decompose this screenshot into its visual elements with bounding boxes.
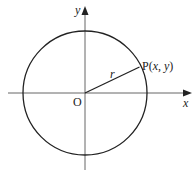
point-close: ): [169, 59, 173, 73]
origin-label: O: [73, 95, 82, 109]
point-label: P(x, y): [142, 59, 173, 73]
y-axis-label: y: [74, 3, 81, 17]
x-axis-label: x: [182, 96, 189, 110]
radius-label: r: [110, 67, 115, 81]
point-name: P(: [142, 59, 153, 73]
y-axis-arrow-icon: [82, 6, 89, 15]
circle-diagram: y x O r P(x, y): [0, 0, 194, 179]
